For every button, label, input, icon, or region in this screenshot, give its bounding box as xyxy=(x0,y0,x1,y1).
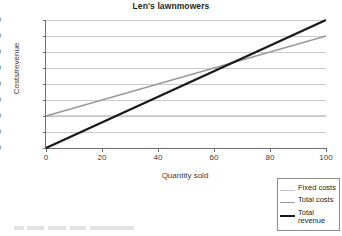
chart-container: Len's lawnmowers Costs/revenue 010002000… xyxy=(0,0,342,236)
plot-area: 010002000300040005000600070008000 020406… xyxy=(45,20,326,149)
legend-item-fixed-costs[interactable]: Fixed costs xyxy=(280,184,337,195)
x-tick-label: 100 xyxy=(306,154,342,162)
legend-swatch-total-revenue xyxy=(280,210,295,220)
x-tick-mark xyxy=(270,148,271,152)
x-tick-mark xyxy=(326,148,327,152)
legend-label-total-revenue: Total revenue xyxy=(298,209,337,226)
y-tick-label: 8000 xyxy=(0,16,1,24)
x-tick-label: 60 xyxy=(194,154,234,162)
series-line-total-costs xyxy=(46,36,326,116)
legend-swatch-total-costs xyxy=(280,197,295,207)
y-tick-label: 1000 xyxy=(0,128,1,136)
x-tick-label: 0 xyxy=(26,154,66,162)
x-tick-mark xyxy=(102,148,103,152)
x-tick-mark xyxy=(158,148,159,152)
x-tick-label: 80 xyxy=(250,154,290,162)
y-tick-label: 4000 xyxy=(0,80,1,88)
y-tick-label: 7000 xyxy=(0,32,1,40)
y-tick-label: 5000 xyxy=(0,64,1,72)
x-tick-mark xyxy=(214,148,215,152)
page-edge-artifact xyxy=(14,226,134,230)
chart-title: Len's lawnmowers xyxy=(0,1,342,11)
y-tick-label: 3000 xyxy=(0,96,1,104)
legend-swatch-fixed-costs xyxy=(280,185,295,195)
y-axis-title: Costs/revenue xyxy=(12,9,21,129)
legend-item-total-costs[interactable]: Total costs xyxy=(280,196,337,207)
series-lines xyxy=(46,20,326,148)
chart-legend: Fixed costs Total costs Total revenue xyxy=(277,178,340,231)
x-tick-label: 20 xyxy=(82,154,122,162)
y-tick-label: 0 xyxy=(0,144,1,152)
series-line-total-revenue xyxy=(46,20,326,148)
x-tick-label: 40 xyxy=(138,154,178,162)
y-tick-label: 2000 xyxy=(0,112,1,120)
legend-item-total-revenue[interactable]: Total revenue xyxy=(280,209,337,226)
y-tick-label: 6000 xyxy=(0,48,1,56)
legend-label-total-costs: Total costs xyxy=(298,196,333,205)
legend-label-fixed-costs: Fixed costs xyxy=(298,184,336,193)
